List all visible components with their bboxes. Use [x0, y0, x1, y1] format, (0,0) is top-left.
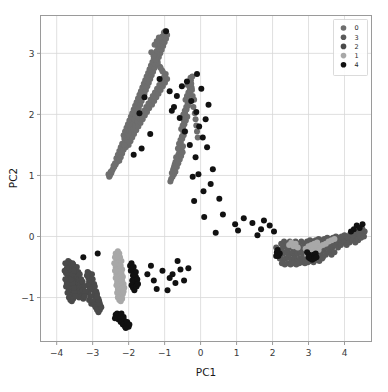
data-point — [188, 98, 194, 104]
data-point — [195, 171, 201, 177]
data-point — [306, 254, 312, 260]
data-point — [271, 229, 277, 235]
data-point — [112, 268, 118, 274]
data-point — [193, 154, 199, 160]
data-point — [203, 116, 209, 122]
data-point — [235, 227, 241, 233]
data-point — [131, 264, 137, 270]
data-point — [94, 293, 100, 299]
data-point — [167, 275, 173, 281]
y-tick-label: 0 — [29, 232, 35, 242]
y-axis-title: PC2 — [7, 168, 19, 188]
x-tick-label: 1 — [234, 348, 240, 358]
data-point — [258, 226, 264, 232]
data-point — [167, 88, 173, 94]
data-point — [213, 230, 219, 236]
legend-label-3: 3 — [355, 34, 359, 42]
data-point — [241, 215, 247, 221]
data-point — [196, 124, 202, 130]
data-point — [144, 271, 150, 277]
x-tick-label: −4 — [50, 348, 64, 358]
data-point — [62, 276, 68, 282]
data-point — [174, 93, 180, 99]
data-point — [169, 108, 175, 114]
legend-marker-4 — [341, 62, 347, 68]
legend-label-0: 0 — [355, 24, 359, 32]
y-tick-label: 2 — [29, 110, 35, 120]
data-point — [177, 266, 183, 272]
data-point — [261, 218, 267, 224]
data-point — [179, 83, 185, 89]
legend-marker-3 — [341, 34, 347, 40]
legend-marker-0 — [341, 25, 347, 31]
data-point — [331, 249, 337, 255]
data-point — [295, 244, 301, 250]
data-point — [187, 142, 193, 148]
legend-label-4: 4 — [355, 61, 359, 69]
data-point — [63, 284, 69, 290]
data-point — [157, 76, 163, 82]
legend-marker-2 — [341, 44, 347, 50]
data-point — [273, 253, 279, 259]
data-point — [249, 220, 255, 226]
legend-marker-1 — [341, 53, 347, 59]
data-point — [184, 78, 190, 84]
data-point — [216, 196, 222, 202]
data-point — [154, 286, 160, 292]
data-point — [193, 109, 199, 115]
x-tick-label: −3 — [86, 348, 99, 358]
legend-label-1: 1 — [355, 52, 359, 60]
data-point — [121, 142, 127, 148]
data-point — [151, 277, 157, 283]
x-tick-label: −2 — [122, 348, 135, 358]
data-point — [62, 260, 68, 266]
data-point — [232, 221, 238, 227]
data-point — [139, 146, 145, 152]
y-tick-label: 1 — [29, 171, 35, 181]
data-point — [113, 275, 119, 281]
data-point — [198, 86, 204, 92]
data-point — [267, 223, 273, 229]
data-point — [275, 247, 281, 253]
data-point — [200, 135, 206, 141]
data-point — [220, 212, 226, 218]
data-point — [123, 325, 129, 331]
data-point — [206, 102, 212, 108]
data-point — [135, 281, 141, 287]
data-point — [148, 49, 154, 55]
data-point — [141, 94, 147, 100]
data-point — [62, 268, 68, 274]
data-point — [148, 263, 154, 269]
scatter-plot-figure: −4−3−2−101234 −10123 PC1 PC2 03214 — [0, 0, 388, 392]
data-point — [158, 65, 164, 71]
data-point — [72, 293, 78, 299]
data-point — [348, 229, 354, 235]
data-point — [95, 251, 101, 257]
data-point — [121, 285, 127, 291]
data-point — [175, 146, 181, 152]
data-point — [136, 110, 142, 116]
data-point — [181, 277, 187, 283]
data-point — [319, 255, 325, 261]
data-point — [131, 152, 137, 158]
data-point — [119, 296, 125, 302]
data-point — [331, 236, 337, 242]
data-point — [71, 268, 77, 274]
data-point — [111, 260, 117, 266]
x-tick-label: 3 — [306, 348, 312, 358]
y-tick-labels: −10123 — [21, 49, 35, 303]
data-point — [190, 174, 196, 180]
data-point — [208, 181, 214, 187]
data-point — [201, 214, 207, 220]
data-point — [193, 116, 199, 122]
data-point — [84, 273, 90, 279]
y-tick-label: −1 — [21, 293, 34, 303]
data-point — [152, 42, 158, 48]
x-tick-labels: −4−3−2−101234 — [50, 348, 348, 358]
x-tick-label: 2 — [270, 348, 276, 358]
data-point — [159, 268, 165, 274]
data-point — [210, 166, 216, 172]
data-point — [194, 71, 200, 77]
x-tick-label: 0 — [198, 348, 204, 358]
data-point — [106, 171, 112, 177]
